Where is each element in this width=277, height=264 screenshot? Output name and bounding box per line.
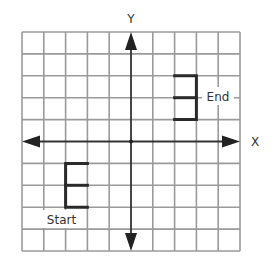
x-axis-right-arrow-icon xyxy=(222,136,240,148)
y-axis-down-arrow-icon xyxy=(125,233,137,251)
x-axis-left-arrow-icon xyxy=(22,136,40,148)
y-axis-up-arrow-icon xyxy=(125,32,137,50)
start-shape xyxy=(66,163,88,207)
x-axis-label: X xyxy=(251,135,259,149)
end-shape xyxy=(175,76,197,120)
y-axis-label: Y xyxy=(126,12,135,26)
origin-point xyxy=(129,140,133,144)
start-label: Start xyxy=(47,213,77,227)
coordinate-grid-diagram: Y X End Start xyxy=(0,0,277,264)
end-label: End xyxy=(207,90,230,104)
